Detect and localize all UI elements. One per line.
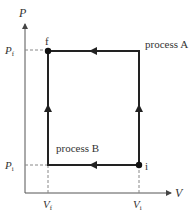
process-a-label: process A — [145, 38, 188, 50]
pf-tick-label: Pf — [4, 44, 15, 58]
dashed-guides — [25, 50, 139, 193]
v-axis-label: V — [175, 186, 184, 200]
process-b-label: process B — [56, 142, 99, 154]
point-f-label: f — [45, 35, 49, 47]
point-i — [136, 162, 142, 168]
pi-tick-label: Pi — [4, 159, 14, 173]
pv-diagram: P V Pf Pi Vf Vi f i process A process B — [0, 0, 194, 224]
arrow-left-top-icon — [89, 47, 97, 55]
arrow-up-right-icon — [135, 104, 143, 112]
vi-tick-label: Vi — [133, 198, 142, 212]
arrow-up-left-icon — [44, 104, 52, 112]
point-i-label: i — [145, 160, 148, 172]
vf-tick-label: Vf — [43, 198, 53, 212]
point-f — [45, 48, 51, 54]
arrow-left-bottom-icon — [89, 161, 97, 169]
p-axis-label: P — [18, 6, 27, 20]
